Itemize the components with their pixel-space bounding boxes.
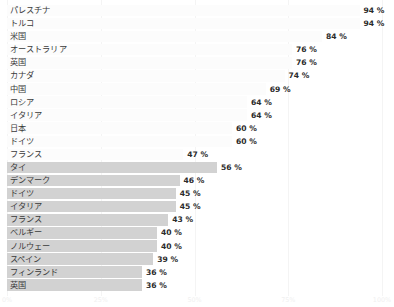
bar-row[interactable]: カナダ74 % — [0, 69, 394, 82]
bar-group-bottom: タイ56 %デンマーク46 %ドイツ45 %イタリア45 %フランス43 %ベル… — [0, 161, 394, 292]
bar-category-label: 英国 — [10, 279, 26, 292]
bar[interactable] — [7, 18, 360, 30]
bar-value-label: 45 % — [180, 187, 201, 200]
bar-row[interactable]: ベルギー40 % — [0, 226, 394, 239]
bar-category-label: スペイン — [10, 253, 41, 266]
bar-row[interactable]: ドイツ60 % — [0, 135, 394, 148]
bar-row[interactable]: 米国84 % — [0, 30, 394, 43]
bar-row[interactable]: ロシア64 % — [0, 96, 394, 109]
bar-row[interactable]: フランス47 % — [0, 148, 394, 161]
bar-category-label: ドイツ — [10, 135, 34, 148]
bar-value-label: 60 % — [236, 122, 257, 135]
bar-value-label: 39 % — [157, 253, 178, 266]
bar[interactable] — [7, 96, 247, 108]
bar-category-label: フィンランド — [10, 266, 59, 279]
bar[interactable] — [7, 109, 247, 121]
bar-value-label: 94 % — [364, 17, 385, 30]
bar[interactable] — [7, 162, 217, 174]
bar-category-label: フランス — [10, 148, 42, 161]
bar-value-label: 76 % — [296, 56, 317, 69]
bar-row[interactable]: 日本60 % — [0, 122, 394, 135]
bar-category-label: ドイツ — [10, 187, 34, 200]
bar[interactable] — [7, 279, 142, 291]
bar-category-label: イタリア — [10, 109, 42, 122]
bar-row[interactable]: フィンランド36 % — [0, 266, 394, 279]
bar-value-label: 36 % — [146, 279, 167, 292]
bar-row[interactable]: オーストラリア76 % — [0, 43, 394, 56]
bar-row[interactable]: 英国36 % — [0, 279, 394, 292]
bar[interactable] — [7, 122, 232, 134]
bar[interactable] — [7, 70, 285, 82]
bar-row[interactable]: パレスチナ94 % — [0, 4, 394, 17]
bar-value-label: 40 % — [161, 226, 182, 239]
bar-category-label: デンマーク — [10, 174, 51, 187]
bar-category-label: 英国 — [10, 56, 26, 69]
bar-category-label: タイ — [10, 161, 26, 174]
bar-value-label: 56 % — [221, 161, 242, 174]
bar-category-label: 米国 — [10, 30, 26, 43]
bar-value-label: 47 % — [187, 148, 208, 161]
bar-category-label: カナダ — [10, 69, 34, 82]
horizontal-bar-chart: パレスチナ94 %トルコ94 %米国84 %オーストラリア76 %英国76 %カ… — [0, 0, 394, 307]
bar-row[interactable]: フランス43 % — [0, 213, 394, 226]
bar-value-label: 64 % — [251, 109, 272, 122]
x-axis: 0%25%50%75%100% — [0, 296, 394, 307]
bar-value-label: 36 % — [146, 266, 167, 279]
bar-value-label: 46 % — [184, 174, 205, 187]
bar[interactable] — [7, 31, 322, 43]
bar-value-label: 76 % — [296, 43, 317, 56]
bar-category-label: 日本 — [10, 122, 26, 135]
bar[interactable] — [7, 57, 292, 69]
bar-value-label: 69 % — [270, 83, 291, 96]
bar-row[interactable]: タイ56 % — [0, 161, 394, 174]
bar-category-label: 中国 — [10, 83, 26, 96]
x-axis-tick-label: 75% — [281, 296, 295, 304]
x-axis-tick-label: 100% — [373, 296, 391, 304]
bar-group-top: パレスチナ94 %トルコ94 %米国84 %オーストラリア76 %英国76 %カ… — [0, 4, 394, 161]
bar-row[interactable]: デンマーク46 % — [0, 174, 394, 187]
bar-row[interactable]: イタリア64 % — [0, 109, 394, 122]
x-axis-tick-label: 25% — [94, 296, 108, 304]
x-axis-tick-label: 50% — [187, 296, 201, 304]
bar-category-label: ロシア — [10, 96, 34, 109]
bar-value-label: 60 % — [236, 135, 257, 148]
bar[interactable] — [7, 5, 360, 17]
bar-category-label: オーストラリア — [10, 43, 67, 56]
bar-category-label: フランス — [10, 213, 42, 226]
bar-row[interactable]: イタリア45 % — [0, 200, 394, 213]
bar-row[interactable]: トルコ94 % — [0, 17, 394, 30]
bar-category-label: ノルウェー — [10, 240, 51, 253]
bar-row[interactable]: スペイン39 % — [0, 253, 394, 266]
bar[interactable] — [7, 136, 232, 148]
bar-row[interactable]: ドイツ45 % — [0, 187, 394, 200]
bar-value-label: 84 % — [326, 30, 347, 43]
bar-category-label: トルコ — [10, 17, 34, 30]
bar-value-label: 74 % — [289, 69, 310, 82]
bar-row[interactable]: ノルウェー40 % — [0, 240, 394, 253]
bar-category-label: ベルギー — [10, 226, 42, 239]
bar-value-label: 40 % — [161, 240, 182, 253]
bar-row[interactable]: 英国76 % — [0, 56, 394, 69]
bar-category-label: イタリア — [10, 200, 42, 213]
bar-category-label: パレスチナ — [10, 4, 51, 17]
bar-value-label: 64 % — [251, 96, 272, 109]
bar-row[interactable]: 中国69 % — [0, 83, 394, 96]
bar[interactable] — [7, 83, 266, 95]
bar-value-label: 94 % — [364, 4, 385, 17]
bar-value-label: 45 % — [180, 200, 201, 213]
bar-value-label: 43 % — [172, 213, 193, 226]
x-axis-tick-label: 0% — [2, 296, 12, 304]
